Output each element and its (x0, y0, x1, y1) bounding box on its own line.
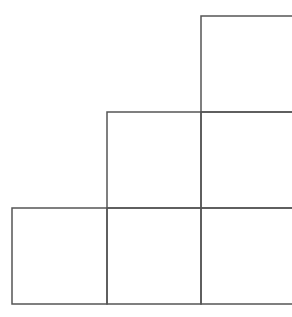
cell-r3-c3 (201, 208, 292, 304)
cell-r3-c2 (107, 208, 201, 304)
cell-r2-c2 (107, 112, 201, 208)
staircase-diagram (0, 0, 292, 317)
cell-r3-c1 (12, 208, 107, 304)
cell-r1-c3 (201, 16, 292, 112)
cell-r2-c3 (201, 112, 292, 208)
